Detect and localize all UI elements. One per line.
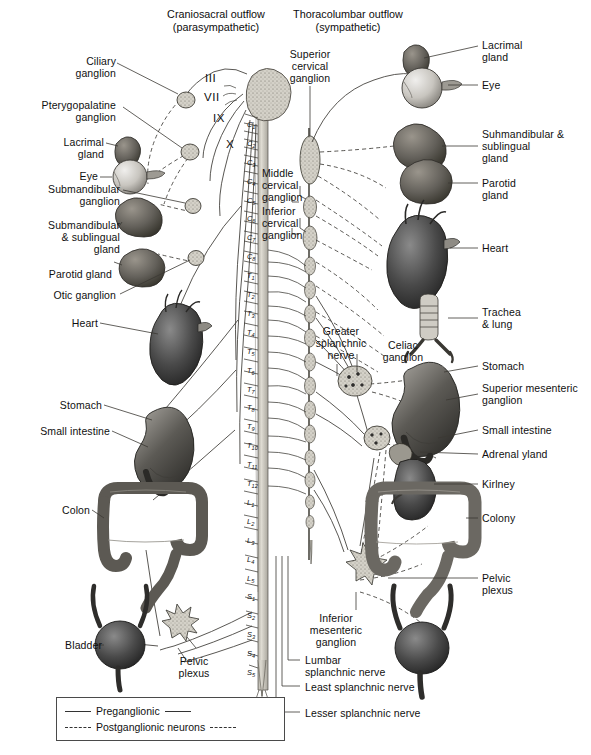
label-least-splanchnic-nerve: Least splanchnic nerve <box>305 681 455 693</box>
spinal-segment-c5: C5 <box>247 196 255 206</box>
pelvic-plexus-left-shape <box>162 604 199 641</box>
spinal-segment-t7: T7 <box>247 385 255 395</box>
spinal-segment-t6: T6 <box>247 366 255 376</box>
parasympathetic-postganglionic-fibers <box>148 100 194 262</box>
label-submandibular-sublingual-gland-sym: Suhmandibular & sublingual gland <box>482 128 588 165</box>
cranial-ganglia <box>177 92 204 266</box>
spinal-segment-t3: T3 <box>247 309 255 319</box>
rami-communicantes <box>268 250 306 494</box>
spinal-segment-s4: S4 <box>247 649 255 659</box>
organ-parotid-gland-left <box>119 249 165 287</box>
cranial-nerve-ix: IX <box>213 112 225 124</box>
otic-ganglion-shape <box>188 251 204 266</box>
spinal-segment-l2: L2 <box>247 517 254 527</box>
spinal-segment-c6: C6 <box>247 214 255 224</box>
preganglionic-line-sample <box>65 711 91 712</box>
label-lesser-splanchnic-nerve: Lesser splanchnic nerve <box>305 707 465 719</box>
label-eye-sym: Eye <box>482 79 552 91</box>
spinal-segment-s1: S1 <box>247 592 255 602</box>
spinal-segment-t1: T1 <box>247 271 255 281</box>
label-superior-cervical-ganglion: Superior cervical ganglion <box>278 48 342 85</box>
organ-submandibular-gland-left <box>115 198 162 237</box>
spinal-segment-t11: T11 <box>247 460 257 470</box>
organ-stomach-left <box>134 407 194 491</box>
postganglionic-line-sample-2 <box>210 727 236 728</box>
label-heart-sym: Heart <box>482 242 542 254</box>
spinal-segment-s2: S2 <box>247 611 255 621</box>
label-otic-ganglion: Otic ganglion <box>22 289 116 301</box>
label-pelvic-plexus-left: Pelvic plexus <box>170 655 218 679</box>
label-parotid-gland-sym: Parotid gland <box>482 177 556 201</box>
legend-row-postganglionic: Postganglionic neurons <box>65 720 236 734</box>
prevertebral-ganglia <box>338 366 390 585</box>
spinal-segment-c3: C3 <box>247 158 255 168</box>
pterygopalatine-ganglion-shape <box>181 144 199 160</box>
submandibular-ganglion-shape <box>185 199 201 214</box>
preganglionic-line-sample-2 <box>165 711 191 712</box>
label-superior-mesenteric-ganglion: Superior mesenteric ganglion <box>482 382 590 406</box>
label-submandibular-ganglion: Submandibular ganglion <box>8 183 120 207</box>
label-adrenal-gland: Adrenal yland <box>482 448 582 460</box>
spinal-segment-t2: T2 <box>247 290 255 300</box>
legend-label-postganglionic: Postganglionic neurons <box>96 720 205 734</box>
spinal-segment-l3: L3 <box>247 536 254 546</box>
autonomic-nervous-system-figure: Craniosacral outflow (parasympathetic) T… <box>0 0 591 755</box>
header-craniosacral-outflow: Craniosacral outflow (parasympathetic) <box>150 8 282 33</box>
label-parotid-gland: Parotid gland <box>20 268 112 280</box>
organ-heart-right <box>387 200 460 308</box>
label-heart: Heart <box>46 317 98 329</box>
header-thoracolumbar-outflow: Thoracolumbar outflow (sympathetic) <box>282 8 414 33</box>
label-middle-cervical-ganglion: Middle cervical ganglion <box>262 167 314 204</box>
label-lumbar-splanchnic-nerve: Lumbar splanchnic nerve <box>305 654 435 678</box>
spinal-segment-c2: C2 <box>247 139 255 149</box>
ciliary-ganglion-shape <box>177 92 195 108</box>
spinal-segment-l1: L1 <box>247 498 254 508</box>
label-eye: Eye <box>40 170 98 182</box>
label-kidney: Kirlney <box>482 478 552 490</box>
cranial-nerve-iii: III <box>205 72 216 84</box>
label-greater-splanchnic-nerve: Greater splanchnic nerve <box>310 325 372 362</box>
label-submandibular-sublingual-gland: Submandibular & sublingual gland <box>8 219 120 256</box>
label-colon-sym: Colony <box>482 512 552 524</box>
label-small-intestine-sym: Small intestine <box>482 424 582 436</box>
legend-row-preganglionic: Preganglionic <box>65 704 191 718</box>
spinal-segment-t12: T12 <box>247 479 258 489</box>
organ-parotid-gland-right <box>400 159 452 204</box>
label-pterygopalatine-ganglion: Pterygopalatine ganglion <box>6 99 116 123</box>
legend-box: Preganglionic Postganglionic neurons <box>56 697 285 741</box>
label-lacrimal-gland-sym: Lacrimal gland <box>482 39 586 63</box>
cranial-nerve-vii: VII <box>204 91 220 103</box>
organ-eye-right <box>402 45 462 108</box>
legend-label-preganglionic: Preganglionic <box>96 704 160 718</box>
spinal-segment-s3: S3 <box>247 630 255 640</box>
celiac-ganglion-shape <box>338 366 372 396</box>
spinal-segment-c7: C7 <box>247 233 255 243</box>
label-lacrimal-gland: Lacrimal gland <box>26 136 104 160</box>
organ-bladder-left <box>93 586 147 690</box>
label-inferior-mesenteric-ganglion: Inferior mesenteric ganglion <box>300 612 372 649</box>
spinal-segment-l4: L4 <box>247 555 254 565</box>
label-colon: Colon <box>34 504 90 516</box>
spinal-segment-t5: T5 <box>247 347 255 357</box>
superior-mesenteric-ganglion-shape <box>364 426 390 450</box>
spinal-segment-t4: T4 <box>247 328 255 338</box>
label-stomach: Stomach <box>32 399 102 411</box>
postganglionic-line-sample <box>65 727 91 728</box>
spinal-segment-c8: C8 <box>247 252 255 262</box>
label-trachea-lung: Trachea & lung <box>482 306 556 330</box>
spinal-segment-t9: T9 <box>247 422 255 432</box>
organ-colon-left <box>103 488 202 608</box>
label-small-intestine: Small intestine <box>14 425 110 437</box>
spinal-segment-s5: S5 <box>247 668 255 678</box>
label-pelvic-plexus-sym: Pelvic plexus <box>482 572 548 596</box>
cranial-nerve-x: X <box>226 138 234 150</box>
spinal-segment-c1: C1 <box>247 120 255 130</box>
organ-eye-left <box>113 137 165 194</box>
spinal-segment-t10: T10 <box>247 441 258 451</box>
label-celiac-ganglion: Celiac ganglion <box>375 339 431 363</box>
spinal-segment-c4: C4 <box>247 177 255 187</box>
label-ciliary-ganglion: Ciliary ganglion <box>20 55 116 79</box>
label-bladder: Bladder <box>38 639 102 651</box>
spinal-segment-l5: L5 <box>247 574 254 584</box>
spinal-segment-t8: T8 <box>247 403 255 413</box>
